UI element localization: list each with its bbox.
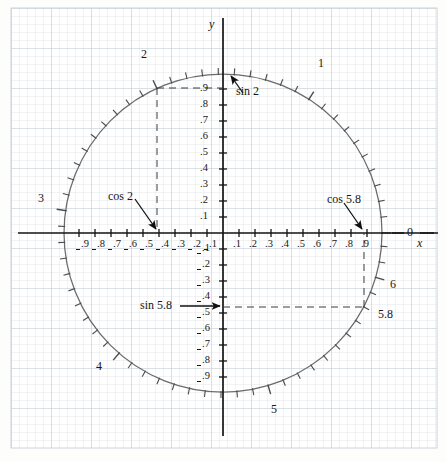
y-tick-label-pos-1: .2	[200, 195, 208, 206]
x-tick-label-neg-8-text: .1	[209, 238, 217, 249]
y-tick-label-neg-0-text: .1	[202, 242, 210, 253]
x-tick-label-neg-5: .4	[156, 239, 169, 250]
x-tick-label-pos-3: .4	[281, 239, 289, 250]
x-tick-label-pos-2-text: .3	[265, 238, 273, 249]
x-tick-label-pos-5-text: .6	[313, 238, 321, 249]
y-tick-label-neg-1-text: .2	[202, 258, 210, 269]
x-tick-label-neg-5-text: .4	[161, 238, 169, 249]
x-tick-label-neg-4: .5	[140, 239, 153, 250]
y-tick-label-neg-4-text: .5	[202, 306, 210, 317]
y-tick-label-neg-8-text: .9	[202, 370, 210, 381]
x-tick-label-neg-6: .3	[172, 239, 185, 250]
angle-label-3: 3	[38, 192, 44, 204]
y-tick-label-neg-6-text: .7	[202, 338, 210, 349]
angle-label-4: 4	[96, 360, 102, 372]
x-tick-label-pos-5: .6	[313, 239, 321, 250]
y-tick-label-neg-3-text: .4	[202, 290, 210, 301]
y-tick-label-pos-1-text: .2	[200, 194, 208, 205]
unit-circle-figure: y x 0 1 2 3 4 5 5.8 6 sin 2 cos 2 sin 5.…	[0, 0, 446, 462]
y-tick-label-pos-2-text: .3	[200, 178, 208, 189]
x-tick-label-neg-4-text: .5	[145, 238, 153, 249]
x-axis-label: x	[417, 237, 422, 249]
y-tick-label-pos-7: .8	[200, 99, 208, 110]
x-tick-label-neg-0: .9	[76, 239, 89, 250]
y-tick-label-neg-1: .2	[197, 259, 210, 270]
x-tick-label-pos-8: .9	[361, 239, 369, 250]
y-tick-label-pos-3-text: .4	[200, 162, 208, 173]
x-tick-label-neg-1-text: .8	[97, 238, 105, 249]
x-tick-label-pos-0-text: .1	[233, 238, 241, 249]
cos-2-label: cos 2	[108, 190, 133, 202]
x-tick-label-neg-1: .8	[92, 239, 105, 250]
y-tick-label-pos-5: .6	[200, 131, 208, 142]
y-axis-label: y	[209, 18, 214, 30]
x-tick-label-pos-6: .7	[329, 239, 337, 250]
y-tick-label-pos-4-text: .5	[200, 146, 208, 157]
sin-5point8-label: sin 5.8	[140, 299, 172, 311]
y-tick-label-pos-0: .1	[200, 211, 208, 222]
y-tick-label-neg-5-text: .6	[202, 322, 210, 333]
unit-circle-plot	[0, 0, 446, 462]
y-tick-label-pos-4: .5	[200, 147, 208, 158]
y-tick-label-pos-2: .3	[200, 179, 208, 190]
y-tick-label-neg-7: .8	[197, 355, 210, 366]
y-tick-label-neg-2: .3	[197, 275, 210, 286]
x-tick-label-pos-4-text: .5	[297, 238, 305, 249]
y-tick-label-pos-3: .4	[200, 163, 208, 174]
x-tick-label-neg-0-text: .9	[81, 238, 89, 249]
x-tick-label-neg-6-text: .3	[177, 238, 185, 249]
y-tick-label-neg-3: .4	[197, 291, 210, 302]
y-tick-label-pos-5-text: .6	[200, 130, 208, 141]
y-tick-label-pos-6: .7	[200, 115, 208, 126]
angle-label-5point8: 5.8	[378, 308, 393, 320]
y-tick-label-neg-0: .1	[197, 243, 210, 254]
x-tick-label-pos-1-text: .2	[249, 238, 257, 249]
angle-label-6: 6	[390, 278, 396, 290]
x-tick-label-pos-7: .8	[345, 239, 353, 250]
x-tick-label-pos-8-text: .9	[361, 238, 369, 249]
y-tick-label-pos-7-text: .8	[200, 98, 208, 109]
y-tick-label-neg-6: .7	[197, 339, 210, 350]
x-tick-label-pos-7-text: .8	[345, 238, 353, 249]
x-tick-label-pos-6-text: .7	[329, 238, 337, 249]
angle-label-1: 1	[318, 57, 324, 69]
y-tick-label-neg-5: .6	[197, 323, 210, 334]
y-tick-label-neg-8: .9	[197, 371, 210, 382]
y-tick-label-neg-2-text: .3	[202, 274, 210, 285]
sin-2-label: sin 2	[236, 85, 259, 97]
x-tick-label-neg-3: .6	[124, 239, 137, 250]
angle-label-5: 5	[271, 403, 277, 415]
y-tick-label-pos-8: .9	[200, 83, 208, 94]
x-tick-label-pos-0: .1	[233, 239, 241, 250]
x-tick-label-pos-2: .3	[265, 239, 273, 250]
x-tick-label-pos-3-text: .4	[281, 238, 289, 249]
x-tick-label-pos-4: .5	[297, 239, 305, 250]
x-tick-label-neg-2-text: .7	[113, 238, 121, 249]
cos-5point8-label: cos 5.8	[327, 193, 361, 205]
y-tick-label-pos-8-text: .9	[200, 82, 208, 93]
x-tick-label-neg-2: .7	[108, 239, 121, 250]
y-tick-label-neg-4: .5	[197, 307, 210, 318]
angle-label-2: 2	[141, 48, 147, 60]
y-tick-label-pos-0-text: .1	[200, 210, 208, 221]
y-tick-label-neg-7-text: .8	[202, 354, 210, 365]
y-tick-label-pos-6-text: .7	[200, 114, 208, 125]
x-tick-label-neg-3-text: .6	[129, 238, 137, 249]
x-tick-label-pos-1: .2	[249, 239, 257, 250]
angle-label-0: 0	[407, 226, 413, 238]
